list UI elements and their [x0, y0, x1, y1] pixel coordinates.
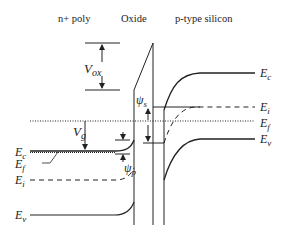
substrate-ef-label: Ef [259, 116, 271, 132]
oxide-conduction-slope [134, 43, 153, 90]
psi-p-label: ψp [124, 161, 136, 177]
band-diagram: Vox Vg ψs ψp Ec Ef Ei Ev Ec Ei Ef Ev [0, 0, 283, 243]
vox-label: Vox [84, 61, 102, 78]
substrate-ev-band [164, 139, 255, 180]
gate-ei-band [30, 168, 134, 180]
gate-ev-label: Ev [14, 208, 26, 224]
substrate-ec-band [164, 73, 255, 110]
substrate-ev-label: Ev [259, 132, 271, 148]
substrate-ei-band [164, 107, 255, 143]
psi-s-label: ψs [136, 93, 147, 109]
gate-ec-band [30, 140, 134, 151]
gate-ev-band [30, 202, 134, 215]
substrate-ei-label: Ei [259, 100, 270, 116]
vg-label: Vg [73, 124, 86, 141]
substrate-ec-label: Ec [259, 66, 271, 82]
gate-ei-label: Ei [14, 173, 25, 189]
